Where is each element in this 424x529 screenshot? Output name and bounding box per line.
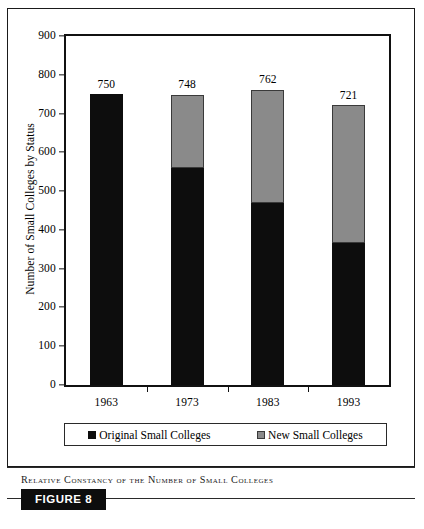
bar-stack: 750 — [90, 94, 123, 385]
y-axis-title-text: Number of Small Colleges by Status — [24, 123, 36, 295]
x-axis-tick — [147, 385, 148, 392]
legend-label: New Small Colleges — [268, 429, 363, 441]
bar-segment-original — [90, 94, 123, 385]
bar-segment-new — [251, 90, 284, 203]
legend-item: New Small Colleges — [257, 429, 363, 441]
legend-item: Original Small Colleges — [88, 429, 210, 441]
legend-label: Original Small Colleges — [99, 429, 210, 441]
y-axis-tick — [59, 268, 66, 269]
bar-stack: 748 — [171, 95, 204, 385]
plot-area: 0100200300400500600700800900196375019737… — [64, 34, 391, 387]
bar-segment-original — [251, 203, 284, 385]
chart-legend: Original Small CollegesNew Small College… — [64, 423, 387, 446]
x-axis-tick — [228, 385, 229, 392]
y-axis-tick-label: 600 — [38, 147, 56, 159]
y-axis-tick-label: 800 — [38, 69, 56, 81]
x-axis-tick-label: 1993 — [337, 397, 361, 409]
bar-stack: 762 — [251, 90, 284, 385]
x-axis-tick — [308, 385, 309, 392]
y-axis-tick — [59, 35, 66, 36]
bar-segment-original — [332, 243, 365, 385]
y-axis-tick — [59, 229, 66, 230]
y-axis-title: Number of Small Colleges by Status — [22, 34, 38, 383]
figure-caption-block: Relative Constancy of the Number of Smal… — [7, 467, 415, 521]
caption-divider-top — [7, 467, 415, 468]
y-axis-tick-label: 500 — [38, 185, 56, 197]
bar-value-label: 721 — [340, 90, 358, 102]
figure-number-badge: FIGURE 8 — [21, 489, 106, 510]
bar-value-label: 748 — [178, 79, 196, 91]
x-axis-tick-label: 1973 — [175, 397, 199, 409]
chart-area: Number of Small Colleges by Status 01002… — [8, 9, 414, 466]
y-axis-tick — [59, 113, 66, 114]
x-axis-tick-label: 1983 — [256, 397, 280, 409]
bar-value-label: 750 — [97, 79, 115, 91]
y-axis-tick — [59, 346, 66, 347]
bar-value-label: 762 — [259, 74, 277, 86]
legend-swatch-new — [257, 431, 265, 439]
bar-segment-new — [171, 95, 204, 168]
bar-stack: 721 — [332, 105, 365, 385]
y-axis-tick-label: 200 — [38, 302, 56, 314]
y-axis-tick — [59, 307, 66, 308]
y-axis-tick-label: 700 — [38, 108, 56, 120]
y-axis-tick-label: 900 — [38, 30, 56, 42]
figure-caption-text: Relative Constancy of the Number of Smal… — [21, 474, 273, 485]
y-axis-tick-label: 0 — [50, 379, 56, 391]
y-axis-tick-label: 400 — [38, 224, 56, 236]
legend-swatch-original — [88, 431, 96, 439]
x-axis-tick-label: 1963 — [94, 397, 118, 409]
y-axis-tick-label: 300 — [38, 263, 56, 275]
y-axis-tick — [59, 74, 66, 75]
bar-segment-original — [171, 168, 204, 385]
y-axis-tick — [59, 190, 66, 191]
y-axis-tick — [59, 152, 66, 153]
bar-segment-new — [332, 105, 365, 243]
figure-frame: Number of Small Colleges by Status 01002… — [7, 8, 415, 467]
y-axis-tick-label: 100 — [38, 340, 56, 352]
y-axis-tick — [59, 384, 66, 385]
